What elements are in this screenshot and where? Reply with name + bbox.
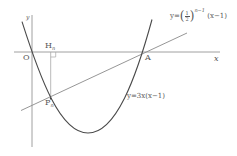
point-h-label: Hn: [45, 42, 55, 51]
line-label: y=(12)n−1 (x−1): [170, 8, 227, 22]
point-p-subscript: n: [50, 102, 53, 108]
point-a-label: A: [145, 54, 151, 62]
right-angle-marker: [51, 52, 56, 57]
x-axis-label: x: [214, 55, 219, 63]
point-h-letter: H: [45, 41, 52, 50]
point-h-subscript: n: [52, 45, 55, 51]
point-p-label: Pn: [45, 99, 54, 108]
exponent: n−1: [194, 7, 205, 13]
line-label-prefix: y=: [170, 12, 180, 20]
origin-label: O: [23, 54, 30, 62]
line-label-suffix: (x−1): [207, 12, 227, 20]
parabola-graph: [22, 20, 152, 134]
graph-canvas: [0, 0, 237, 156]
y-axis-label: y: [26, 14, 29, 20]
parabola-label: y=3x(x−1): [127, 93, 165, 100]
